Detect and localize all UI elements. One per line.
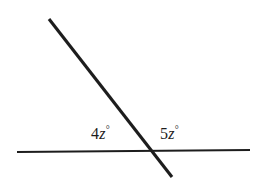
degree-symbol-icon: ° [175,124,179,135]
angle-label-left-coefficient: 4 [91,125,99,142]
angle-label-right: 5z° [160,126,179,142]
diagram-canvas [0,0,258,188]
angle-label-right-coefficient: 5 [160,125,168,142]
transversal-line [49,19,172,177]
angle-diagram-figure: 4z° 5z° [0,0,258,188]
angle-label-left: 4z° [91,126,110,142]
degree-symbol-icon: ° [106,124,110,135]
horizontal-line [17,150,250,152]
